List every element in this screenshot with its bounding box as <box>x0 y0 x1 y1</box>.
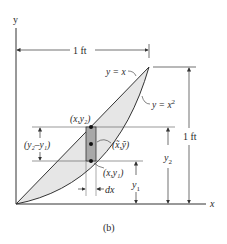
bottom-point-label: (x,y₁) <box>103 168 123 179</box>
x-axis-label: x <box>209 198 215 209</box>
y1-label: y1 <box>131 179 140 193</box>
height-label: 1 ft <box>183 131 197 142</box>
point-centroid <box>89 142 93 146</box>
difference-label: (y₂–y₁) <box>24 140 50 151</box>
top-point-label: (x,y₂) <box>70 114 90 125</box>
width-label: 1 ft <box>73 45 87 56</box>
dx-label: dx <box>105 184 115 195</box>
curve-y-equals-x <box>16 67 149 204</box>
point-top <box>89 125 93 129</box>
y2-label: y2 <box>163 152 172 166</box>
figure-caption: (b) <box>103 222 115 234</box>
area-diagram: y x 1 ft 1 ft y = x y = x2 (y₂–y₁) (x,y₂… <box>0 0 227 244</box>
point-bottom <box>89 159 93 163</box>
curve-label-y-equals-x-squared: y = x2 <box>151 98 176 110</box>
y-axis-label: y <box>13 14 18 25</box>
curve-label-y-equals-x: y = x <box>105 67 126 77</box>
centroid-label: (x̃,ỹ) <box>112 140 129 151</box>
